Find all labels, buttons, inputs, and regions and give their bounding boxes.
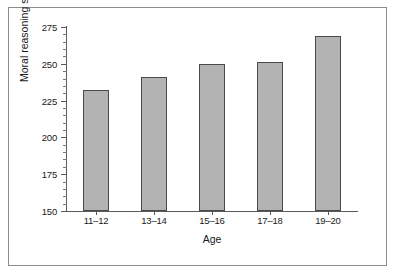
y-tick-mark-minor <box>63 130 67 131</box>
x-tick-label: 11–12 <box>84 215 109 226</box>
y-tick-mark-minor <box>63 42 67 43</box>
y-tick-mark-major <box>61 101 67 102</box>
y-tick-label: 200 <box>42 132 57 143</box>
y-tick-mark-minor <box>63 56 67 57</box>
bar[interactable] <box>315 36 341 211</box>
figure: Moral reasoning score 150175200225250275… <box>0 0 395 274</box>
x-tick-label: 13–14 <box>141 215 166 226</box>
bar[interactable] <box>141 77 167 211</box>
y-tick-mark-minor <box>63 49 67 50</box>
y-tick-mark-minor <box>63 145 67 146</box>
y-tick-label: 150 <box>42 206 57 217</box>
y-tick-mark-major <box>61 64 67 65</box>
x-tick-label: 19–20 <box>315 215 340 226</box>
y-tick-mark-minor <box>63 123 67 124</box>
x-axis-title: Age <box>67 233 357 245</box>
y-tick-mark-minor <box>63 182 67 183</box>
y-tick-mark-minor <box>63 167 67 168</box>
plot-area: 150175200225250275 <box>67 27 357 211</box>
x-tick-label: 17–18 <box>257 215 282 226</box>
y-tick-mark-minor <box>63 71 67 72</box>
y-axis-title: Moral reasoning score <box>18 0 30 82</box>
y-tick-mark-minor <box>63 86 67 87</box>
y-tick-mark-minor <box>63 189 67 190</box>
y-tick-label: 275 <box>42 22 57 33</box>
y-axis-title-container: Moral reasoning score <box>24 30 40 210</box>
bar[interactable] <box>83 90 109 211</box>
y-tick-mark-minor <box>63 115 67 116</box>
y-tick-mark-minor <box>63 79 67 80</box>
y-tick-mark-minor <box>63 152 67 153</box>
bar[interactable] <box>199 64 225 211</box>
y-tick-label: 250 <box>42 58 57 69</box>
y-tick-mark-minor <box>63 159 67 160</box>
y-tick-mark-minor <box>63 93 67 94</box>
y-tick-mark-major <box>61 27 67 28</box>
y-tick-mark-major <box>61 174 67 175</box>
bar[interactable] <box>257 62 283 211</box>
y-tick-label: 175 <box>42 169 57 180</box>
y-tick-mark-minor <box>63 196 67 197</box>
y-tick-label: 225 <box>42 95 57 106</box>
y-tick-mark-major <box>61 137 67 138</box>
y-tick-mark-minor <box>63 108 67 109</box>
y-tick-mark-minor <box>63 34 67 35</box>
x-tick-label: 15–16 <box>199 215 224 226</box>
y-tick-mark-major <box>61 211 67 212</box>
y-tick-mark-minor <box>63 204 67 205</box>
